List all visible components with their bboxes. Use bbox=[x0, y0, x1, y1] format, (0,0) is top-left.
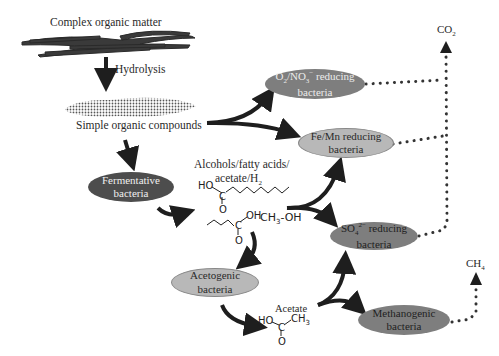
intermediates-to-acetogenic-arrow bbox=[245, 232, 255, 262]
node-o2-no3-reducing-bacteria: O2/NO3− reducing bacteria bbox=[265, 69, 365, 99]
co2-label: CO2 bbox=[437, 23, 456, 38]
ch4-dotted-path bbox=[452, 287, 476, 322]
acetate-ho: HO bbox=[258, 315, 273, 326]
acetate-c: C bbox=[278, 322, 285, 333]
methanol-label: CH3-OH bbox=[260, 211, 302, 226]
node-so4-reducing-bacteria: SO42− reducing bacteria bbox=[330, 222, 418, 250]
acetate-o: O bbox=[278, 336, 286, 347]
simple-organic-compounds-label: Simple organic compounds bbox=[76, 119, 202, 132]
fermentative-to-intermediates-arrow bbox=[158, 208, 184, 215]
simple-to-femn-arrow bbox=[207, 123, 290, 133]
complex-matter-fibers-icon bbox=[22, 31, 195, 57]
fatty-acid-o: O bbox=[219, 204, 227, 215]
node-fe-mn-reducing-bacteria: Fe/Mn reducing bacteria bbox=[298, 128, 394, 158]
complex-organic-matter-label: Complex organic matter bbox=[50, 16, 162, 29]
node-acetogenic-bacteria: Acetogenic bacteria bbox=[171, 268, 259, 297]
ch4-arrowhead-icon bbox=[470, 272, 482, 285]
acetate-to-methanogenic-arrow bbox=[318, 300, 358, 307]
hydrolysis-label: Hydrolysis bbox=[115, 63, 165, 76]
butyric-o: O bbox=[235, 235, 243, 246]
butyric-c: C bbox=[235, 220, 242, 231]
intermediates-to-femn-arrow bbox=[287, 168, 338, 208]
simple-compounds-blob-icon bbox=[65, 98, 196, 117]
simple-to-fermentative-arrow bbox=[125, 140, 131, 160]
intermediates-label-line2: acetate/H2 bbox=[215, 172, 262, 187]
acetogenic-to-acetate-arrow bbox=[222, 305, 256, 326]
ch4-label: CH4 bbox=[466, 257, 485, 272]
fatty-acid-c: C bbox=[219, 191, 226, 202]
acetate-ch3: CH3 bbox=[291, 313, 310, 327]
co2-arrowhead-icon bbox=[440, 41, 452, 53]
intermediates-label-line1: Alcohols/fatty acids/ bbox=[194, 158, 290, 171]
fatty-acid-ho: HO bbox=[198, 180, 213, 191]
simple-to-o2no3-arrow bbox=[207, 96, 268, 123]
node-methanogenic-bacteria: Methanogenic bacteria bbox=[358, 305, 450, 335]
node-fermentative-bacteria: Fermentative bacteria bbox=[88, 172, 174, 202]
